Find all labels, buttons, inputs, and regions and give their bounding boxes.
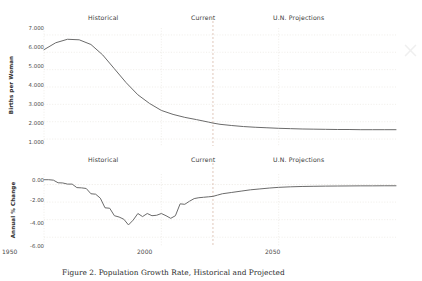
annual-change-line-plot	[0, 152, 422, 262]
chart-panel-fertility: Births per Woman 7.000 6.000 5.000 4.000…	[0, 0, 422, 152]
figure-caption: Figure 2. Population Growth Rate, Histor…	[62, 268, 402, 281]
figure-container: Births per Woman 7.000 6.000 5.000 4.000…	[0, 0, 422, 281]
chart-panel-annual-change: Annual % Change 0.00 -2.00 -4.00 -6.00 H…	[0, 152, 422, 262]
close-x-icon	[404, 44, 417, 57]
fertility-line-plot	[0, 0, 422, 152]
